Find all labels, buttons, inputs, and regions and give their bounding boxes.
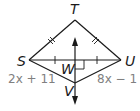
arrow-up-icon — [72, 37, 78, 46]
label-w: W — [61, 62, 75, 76]
segment-st — [29, 20, 75, 60]
expression-vu: 8x − 1 — [97, 73, 137, 85]
expression-sv: 2x + 11 — [8, 73, 56, 85]
label-s: S — [17, 54, 26, 68]
label-v: V — [64, 84, 74, 98]
label-t: T — [70, 2, 79, 16]
label-u: U — [125, 54, 135, 68]
right-angle-mark — [75, 60, 84, 69]
